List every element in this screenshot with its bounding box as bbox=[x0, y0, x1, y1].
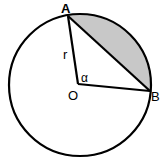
point-label-O: O bbox=[68, 88, 78, 103]
point-label-A: A bbox=[61, 1, 71, 16]
radius-label-r: r bbox=[63, 47, 68, 62]
radius-OB bbox=[78, 84, 150, 91]
point-label-B: B bbox=[151, 89, 160, 104]
circle-segment-diagram: A O B r α bbox=[0, 0, 164, 163]
radius-OA bbox=[68, 16, 78, 84]
angle-label-alpha: α bbox=[81, 71, 88, 85]
